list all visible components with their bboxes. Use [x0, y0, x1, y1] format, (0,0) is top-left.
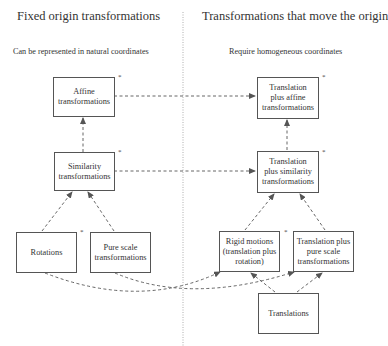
- node-label-line: Rigid motions: [226, 237, 273, 246]
- node-label-line: Translation plus: [297, 237, 350, 246]
- node-label-line: transformations: [297, 257, 349, 266]
- node-label-line: transformations: [262, 177, 314, 186]
- node-label-line: plus affine: [270, 93, 305, 102]
- node-label-line: transformations: [58, 97, 110, 106]
- node-pure-scale: Pure scaletransformations: [90, 232, 151, 273]
- edge-pure-scale-to-translation-pure-scale: [115, 272, 294, 289]
- edge-translation-pure-scale-to-translation-similarity: [300, 194, 325, 230]
- left-column-title: Fixed origin transformations: [17, 9, 160, 24]
- node-label-line: Translation: [269, 83, 307, 92]
- node-label-line: transformations: [58, 172, 110, 181]
- right-column-subtitle: Require homogeneous coordinates: [229, 47, 342, 56]
- node-label-line: Similarity: [68, 162, 101, 171]
- node-label-line: Rotations: [31, 248, 63, 257]
- node-label-line: Affine: [73, 87, 95, 96]
- node-label-line: (translation plus: [223, 247, 277, 256]
- edge-rotations-to-rigid: [45, 272, 220, 291]
- star-marker: *: [80, 228, 84, 236]
- node-translation-pure-scale: Translation pluspure scaletransformation…: [293, 231, 354, 272]
- star-marker: *: [284, 228, 288, 236]
- star-marker: *: [322, 148, 326, 156]
- node-label-line: Translations: [268, 309, 309, 318]
- node-label-line: Translation: [269, 157, 307, 166]
- node-label-line: plus similarity: [264, 167, 312, 176]
- right-column-title: Transformations that move the origin: [202, 9, 388, 24]
- edge-translations-to-translation-pure-scale: [297, 273, 322, 292]
- edge-rigid-to-translation-similarity: [245, 194, 274, 230]
- node-similarity: Similaritytransformations: [54, 152, 115, 191]
- node-translations: Translations: [258, 293, 319, 334]
- node-affine: Affinetransformations: [53, 77, 115, 117]
- star-marker: *: [322, 73, 326, 81]
- node-label-line: pure scale: [307, 247, 340, 256]
- node-label-line: transformations: [262, 103, 314, 112]
- node-translation-similarity: Translationplus similaritytransformation…: [257, 151, 319, 193]
- edge-rotations-to-similarity: [42, 192, 72, 231]
- node-label-line: Pure scale: [104, 243, 138, 252]
- edge-pure-scale-to-similarity: [88, 192, 114, 231]
- node-rigid-motions: Rigid motions(translation plusrotation): [219, 231, 280, 272]
- star-marker: *: [118, 148, 122, 156]
- left-column-subtitle: Can be represented in natural coordinate…: [13, 47, 149, 56]
- node-rotations: Rotations: [16, 232, 77, 273]
- star-marker: *: [118, 73, 122, 81]
- node-translation-affine: Translationplus affinetransformations: [257, 77, 319, 119]
- edge-translations-to-rigid: [251, 273, 275, 292]
- node-label-line: rotation): [235, 257, 264, 266]
- node-label-line: transformations: [94, 253, 146, 262]
